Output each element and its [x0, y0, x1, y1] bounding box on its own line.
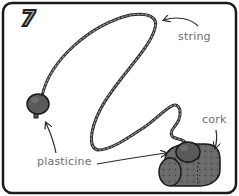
label-string: string	[178, 31, 211, 42]
label-cork: cork	[202, 114, 226, 125]
instruction-panel: 7 string cork plasticine	[0, 0, 239, 196]
plasticine-blob-cork	[176, 142, 200, 162]
step-number: 7	[21, 9, 36, 30]
label-plasticine: plasticine	[37, 156, 92, 167]
